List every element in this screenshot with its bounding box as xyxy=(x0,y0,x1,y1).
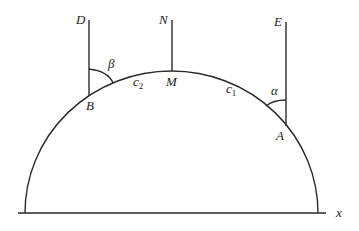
label-a: A xyxy=(275,128,284,143)
label-c1-sub: 1 xyxy=(232,88,237,98)
angle-beta-arc xyxy=(89,69,113,83)
label-b: B xyxy=(86,98,94,113)
angle-alpha-arc xyxy=(266,100,286,106)
label-c2: c2 xyxy=(133,74,143,91)
diagram-canvas: D N E B M A β α c2 c1 x xyxy=(0,0,359,231)
label-c2-sub: 2 xyxy=(139,81,144,91)
label-e: E xyxy=(273,14,282,29)
label-x-axis: x xyxy=(335,205,342,220)
label-d: D xyxy=(75,12,86,27)
label-c1: c1 xyxy=(226,81,236,98)
label-m: M xyxy=(165,74,178,89)
label-alpha: α xyxy=(271,83,279,98)
label-n: N xyxy=(158,12,169,27)
label-beta: β xyxy=(107,56,115,71)
